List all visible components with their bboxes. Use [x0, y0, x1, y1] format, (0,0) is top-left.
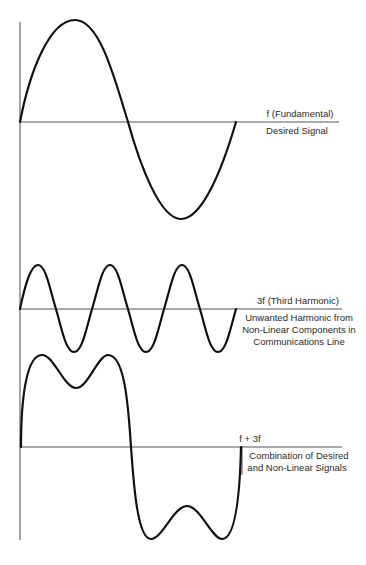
third-harmonic-description-line-2: Non-Linear Components in — [242, 324, 356, 336]
combination-description-line-2: and Non-Linear Signals — [247, 462, 346, 474]
waveform-diagram — [0, 0, 366, 565]
third-harmonic-description-line-1: Unwanted Harmonic from — [245, 312, 353, 324]
third-harmonic-title: 3f (Third Harmonic) — [257, 295, 339, 307]
combination-title: f + 3f — [239, 433, 260, 445]
fundamental-description: Desired Signal — [266, 125, 328, 137]
fundamental-title: f (Fundamental) — [266, 108, 333, 120]
third-harmonic-description-line-3: Communications Line — [253, 336, 344, 348]
combination-description-line-1: Combination of Desired — [249, 450, 348, 462]
fundamental-wave — [20, 20, 236, 219]
